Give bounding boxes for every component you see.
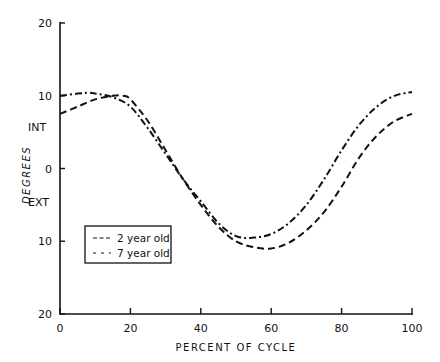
int-label: INT [28,121,46,134]
y-tick-label: 20 [38,308,52,321]
x-axis-ticks: 020406080100 [57,308,423,335]
x-tick-label: 60 [264,322,278,335]
legend-label-7yr: 7 year old [117,247,170,259]
y-axis-title: DEGREES [21,146,32,204]
x-tick-label: 0 [57,322,64,335]
legend: 2 year old 7 year old [85,226,171,263]
y-tick-label: 10 [38,90,52,103]
x-tick-label: 40 [194,322,208,335]
y-tick-label: 20 [38,17,52,30]
y-tick-label: 0 [45,163,52,176]
x-tick-label: 20 [123,322,137,335]
x-tick-label: 80 [335,322,349,335]
y-axis-ticks: 201001020 [38,17,65,321]
y-tick-label: 10 [38,235,52,248]
x-tick-label: 100 [402,322,423,335]
series-group [60,92,412,249]
x-axis-title: PERCENT OF CYCLE [176,342,297,353]
line-chart: 201001020 020406080100 INT EXT DEGREES P… [0,0,440,362]
legend-label-2yr: 2 year old [117,232,170,244]
series-line-7-year-old [60,92,412,238]
